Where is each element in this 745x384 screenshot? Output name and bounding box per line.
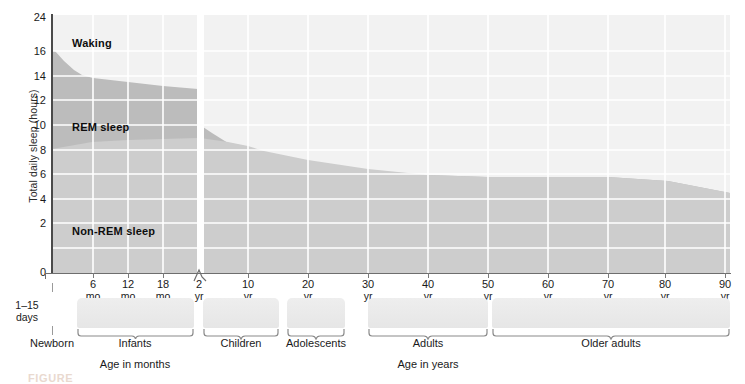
group-label-adults: Adults [413, 337, 444, 349]
group-box-older-adults [492, 298, 730, 328]
newborn-note-line2: days [16, 311, 38, 323]
newborn-tick-top [52, 283, 53, 292]
waking-label: Waking [72, 37, 112, 49]
y-tick-4: 4 [20, 193, 46, 205]
x-axis-break-icon [191, 268, 209, 282]
y-tick-6: 6 [20, 168, 46, 180]
figure-tag: FIGURE [28, 372, 73, 384]
x-axis-break-gap [197, 15, 204, 273]
x-tick-18mo-value: 18 [157, 278, 169, 290]
x-tick-90yr-value: 90 [719, 278, 731, 290]
x-tick-70yr-value: 70 [602, 278, 614, 290]
group-label-children: Children [221, 337, 262, 349]
group-box-adults [368, 298, 488, 328]
x-axis-left-cap [45, 273, 46, 279]
x-tick-50yr-value: 50 [482, 278, 494, 290]
y-tick-12: 12 [20, 94, 46, 106]
x-axis-caption-years: Age in years [397, 358, 458, 370]
newborn-note-line1: 1–15 [15, 299, 38, 311]
x-tick-12mo-value: 12 [122, 278, 134, 290]
x-tick-20yr-value: 20 [302, 278, 314, 290]
group-label-adolescents: Adolescents [286, 337, 346, 349]
x-tick-40yr-value: 40 [422, 278, 434, 290]
y-tick-16: 16 [20, 45, 46, 57]
y-tick-14: 14 [20, 70, 46, 82]
group-box-infants [77, 298, 194, 328]
group-label-infants: Infants [118, 337, 151, 349]
newborn-duration-note: 1–15 days [2, 299, 52, 323]
x-tick-10yr-value: 10 [242, 278, 254, 290]
y-tick-10: 10 [20, 119, 46, 131]
x-axis-line [45, 273, 731, 274]
y-tick-0: 0 [20, 266, 46, 278]
group-label-older-adults: Older adults [581, 337, 640, 349]
plot-area: Waking REM sleep Non-REM sleep [52, 15, 730, 273]
y-tick-8: 8 [20, 144, 46, 156]
y-tick-2: 2 [20, 217, 46, 229]
group-box-adolescents [287, 298, 345, 328]
x-tick-80yr-value: 80 [659, 278, 671, 290]
y-tick-24: 24 [20, 11, 46, 23]
y-axis-ticks: 24 16 14 12 10 8 6 4 2 0 [20, 0, 46, 381]
x-tick-60yr-value: 60 [542, 278, 554, 290]
x-tick-30yr-value: 30 [362, 278, 374, 290]
rem-label: REM sleep [72, 121, 129, 133]
non-rem-label: Non-REM sleep [72, 225, 155, 237]
x-axis-caption-months: Age in months [100, 358, 170, 370]
newborn-tick-bottom [52, 326, 53, 335]
group-box-children [203, 298, 279, 328]
x-tick-6mo-value: 6 [90, 278, 96, 290]
group-label-newborn: Newborn [30, 337, 74, 349]
y-axis-line [51, 14, 53, 274]
